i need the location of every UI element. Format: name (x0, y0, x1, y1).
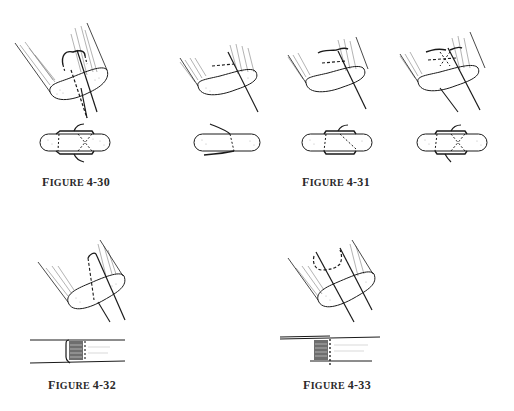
caption-word: IGURE (311, 380, 345, 391)
tendon-end-view-step-3 (415, 122, 490, 164)
tendon-end-view-illustration (38, 122, 113, 164)
figure-caption: FIGURE 4-31 (302, 175, 370, 190)
tendon-oblique-illustration-step-3 (400, 30, 500, 115)
tendon-oblique-illustration (38, 240, 133, 325)
tendon-oblique-illustration-step-2 (288, 35, 383, 113)
caption-number: 4-30 (87, 175, 110, 189)
caption-word: IGURE (56, 380, 90, 391)
tendon-side-view-illustration (30, 337, 130, 367)
caption-initial: F (302, 175, 310, 189)
figure-caption: FIGURE 4-33 (303, 378, 371, 393)
tendon-side-view-illustration (280, 333, 385, 367)
figure-caption: FIGURE 4-32 (48, 378, 116, 393)
caption-word: IGURE (310, 177, 344, 188)
caption-initial: F (303, 378, 311, 392)
tendon-oblique-illustration (288, 240, 383, 325)
tendon-end-view-step-2 (300, 122, 375, 162)
caption-initial: F (48, 378, 56, 392)
caption-initial: F (42, 175, 50, 189)
figure-caption: FIGURE 4-30 (42, 175, 110, 190)
tendon-oblique-illustration-step-1 (180, 40, 275, 115)
caption-number: 4-32 (93, 378, 116, 392)
tendon-oblique-illustration (15, 20, 125, 120)
tendon-end-view-step-1 (190, 122, 265, 162)
caption-number: 4-33 (348, 378, 371, 392)
caption-number: 4-31 (347, 175, 370, 189)
caption-word: IGURE (50, 177, 84, 188)
